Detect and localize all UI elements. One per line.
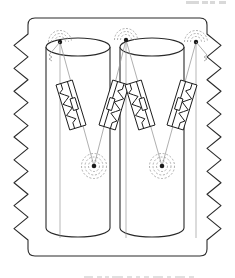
header-mark-1 [186,1,199,4]
bottom-anchor-left-dot [92,164,97,169]
bottom-anchor-right-dot [160,164,165,169]
figure-canvas [0,0,235,278]
right-cylinder-body [120,47,184,237]
header-mark-4 [219,1,226,4]
top-anchor-center-dot [124,38,128,42]
technical-figure [0,0,235,278]
frame-outline [14,18,221,256]
header-mark-2 [202,1,208,4]
broken-away-boundary [14,18,221,256]
header-mark-3 [210,1,215,4]
